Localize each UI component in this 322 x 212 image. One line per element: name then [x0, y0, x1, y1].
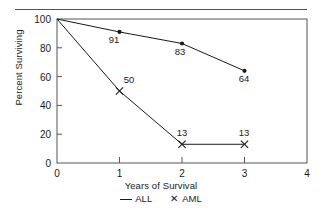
x-tick-label-0: 0 [54, 168, 60, 179]
legend-label-aml: AML [182, 193, 202, 204]
legend-label-all: ALL [135, 193, 152, 204]
y-tick-label-100: 100 [34, 14, 51, 25]
x-tick-label-1: 1 [117, 168, 123, 179]
survival-curve-figure: 100 80 60 40 20 0 0 1 2 3 4 91 83 64 [0, 0, 322, 212]
y-axis-title: Percent Surviving [13, 8, 24, 128]
x-tick-label-4: 4 [304, 168, 310, 179]
x-tick-label-3: 3 [242, 168, 248, 179]
cross-marker-icon: ✕ [167, 194, 180, 204]
y-tick-label-60: 60 [40, 72, 52, 83]
chart-legend: ALL ✕ AML [0, 193, 322, 204]
x-axis-ticks [120, 157, 245, 163]
y-tick-label-40: 40 [40, 100, 52, 111]
legend-entry-all: ALL [120, 193, 152, 204]
data-label-aml-year3: 13 [239, 127, 250, 138]
y-tick-label-0: 0 [45, 158, 51, 169]
data-label-all-year2: 83 [175, 46, 186, 57]
data-label-aml-year1: 50 [124, 74, 135, 85]
data-label-aml-year2: 13 [177, 127, 188, 138]
y-tick-label-80: 80 [40, 43, 52, 54]
plot-frame [57, 19, 307, 163]
data-label-all-year3: 64 [239, 73, 250, 84]
data-point-all-year2 [180, 41, 184, 45]
series-line-all [57, 19, 245, 71]
x-axis-title: Years of Survival [0, 180, 322, 191]
data-label-all-year1: 91 [109, 34, 120, 45]
y-tick-label-20: 20 [40, 129, 52, 140]
legend-entry-aml: ✕ AML [167, 193, 202, 204]
x-tick-label-2: 2 [179, 168, 185, 179]
series-markers-aml [116, 87, 248, 147]
line-dash-icon [120, 194, 133, 204]
y-axis-ticks [57, 48, 62, 134]
data-point-aml-year1 [116, 87, 123, 94]
